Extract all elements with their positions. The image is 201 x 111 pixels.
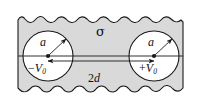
right-potential-subscript: 0: [153, 67, 157, 76]
left-potential-label: −V0: [28, 62, 46, 76]
left-potential-subscript: 0: [42, 67, 46, 76]
conductivity-label-sigma: σ: [96, 25, 105, 38]
right-radius-label-a: a: [148, 36, 154, 48]
figure-canvas: σ a a −V0 +V0 2d: [0, 0, 201, 111]
left-center-dot: [46, 54, 50, 58]
left-potential-sign: −: [28, 61, 35, 75]
diagram-svg: [0, 0, 201, 111]
separation-label: 2d: [88, 72, 100, 84]
left-radius-label-a: a: [40, 36, 46, 48]
right-center-dot: [152, 54, 156, 58]
right-potential-sign: +: [139, 61, 146, 75]
right-potential-label: +V0: [139, 62, 157, 76]
separation-symbol: d: [94, 71, 100, 85]
